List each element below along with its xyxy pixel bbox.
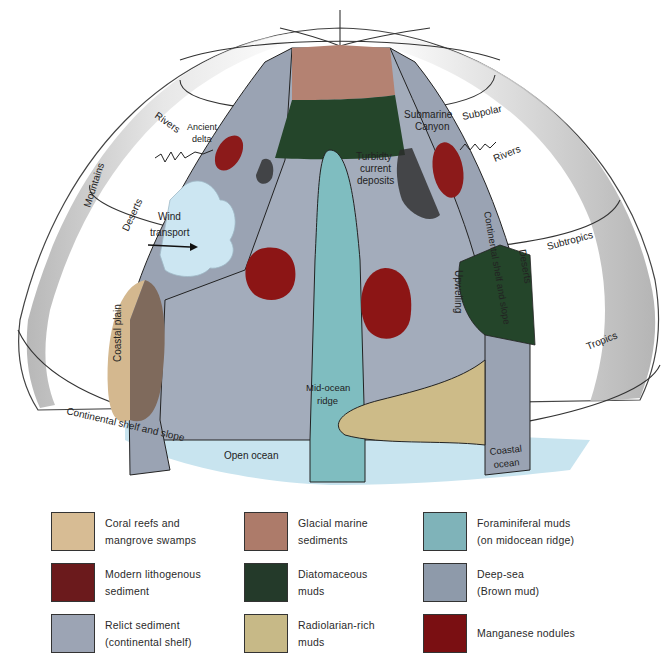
swatch-deep-sea <box>423 563 467 602</box>
legend-item-glacial: Glacial marinesediments <box>244 512 368 551</box>
glacial-marine-region <box>292 45 395 100</box>
legend-item-lithogenous: Modern lithogenoussediment <box>51 563 201 602</box>
swatch-lithogenous <box>51 563 95 602</box>
swatch-radiolarian <box>244 614 288 653</box>
swatch-glacial <box>244 512 288 551</box>
legend: Coral reefs andmangrove swamps Modern li… <box>0 505 671 670</box>
svg-text:deposits: deposits <box>357 175 394 186</box>
legend-item-deep-sea: Deep-sea(Brown mud) <box>423 563 539 602</box>
svg-text:current: current <box>360 163 391 174</box>
swatch-coral <box>51 512 95 551</box>
legend-item-radiolarian: Radiolarian-richmuds <box>244 614 375 653</box>
svg-text:ridge: ridge <box>317 395 338 406</box>
label-coastal-plain: Coastal plain <box>112 304 123 362</box>
label-mid-ocean-ridge: Mid-ocean <box>306 382 350 393</box>
manganese-nodule-left <box>245 248 295 300</box>
swatch-foraminiferal <box>423 512 467 551</box>
label-wind: Wind <box>158 211 181 222</box>
legend-item-relict: Relict sediment(continental shelf) <box>51 614 192 653</box>
svg-text:transport: transport <box>150 227 190 238</box>
manganese-nodule-right <box>361 268 411 339</box>
legend-item-foraminiferal: Foraminiferal muds(on midocean ridge) <box>423 512 574 551</box>
swatch-relict <box>51 614 95 653</box>
legend-item-coral: Coral reefs andmangrove swamps <box>51 512 196 551</box>
label-open-ocean: Open ocean <box>224 450 279 461</box>
label-ancient-delta: Ancient <box>187 122 218 132</box>
svg-text:Canyon: Canyon <box>415 121 449 132</box>
svg-text:delta: delta <box>192 134 212 144</box>
label-upwelling: Upwelling <box>453 270 464 313</box>
ocean-sediment-globe-diagram: Rivers Ancient delta Mountains Deserts W… <box>0 0 671 500</box>
legend-item-diatomaceous: Diatomaceousmuds <box>244 563 368 602</box>
label-submarine-canyon: Submarine <box>404 109 453 120</box>
diatomaceous-region <box>275 95 405 159</box>
label-turbidity-deposits: Turbidty <box>356 151 392 162</box>
legend-item-manganese: Manganese nodules <box>423 614 575 653</box>
swatch-manganese <box>423 614 467 653</box>
swatch-diatomaceous <box>244 563 288 602</box>
